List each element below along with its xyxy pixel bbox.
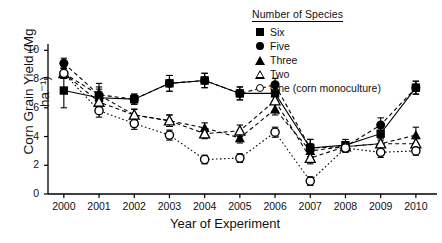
legend: Number of Species SixFiveThreeTwoOne (co… — [252, 4, 381, 95]
x-tick-label: 2006 — [255, 200, 295, 212]
data-point-five — [130, 95, 139, 104]
x-tick-label: 2004 — [185, 200, 225, 212]
legend-item-label: One (corn monoculture) — [270, 82, 381, 94]
open-circle-icon — [252, 84, 268, 92]
filled-circle-icon — [252, 42, 268, 51]
data-point-five — [411, 83, 420, 92]
y-tick-label: 0 — [19, 187, 39, 199]
filled-triangle-icon — [252, 56, 268, 65]
data-point-one — [412, 147, 420, 155]
y-axis-title: Corn Grain Yield (Mg ha⁻¹) — [21, 12, 52, 172]
data-point-one — [271, 128, 279, 136]
data-point-two — [235, 126, 245, 135]
x-tick-label: 2007 — [290, 200, 330, 212]
x-tick-label: 2002 — [114, 200, 154, 212]
data-point-one — [95, 107, 103, 115]
data-point-one — [341, 144, 349, 152]
filled-square-icon — [252, 28, 268, 36]
x-tick-label: 2001 — [79, 200, 119, 212]
data-point-two — [129, 110, 139, 119]
legend-item-two: Two — [252, 67, 381, 81]
marker-glyph — [256, 42, 265, 51]
data-point-five — [59, 59, 68, 68]
chart-figure: Corn Grain Yield (Mg ha⁻¹) Year of Exper… — [0, 0, 442, 243]
x-tick-label: 2010 — [396, 200, 436, 212]
data-point-one — [130, 119, 138, 127]
data-point-five — [165, 79, 174, 88]
legend-item-label: Two — [270, 68, 289, 80]
x-tick-label: 2008 — [325, 200, 365, 212]
data-point-five — [235, 89, 244, 98]
legend-item-label: Five — [270, 40, 290, 52]
data-point-five — [376, 121, 385, 130]
marker-glyph — [256, 28, 264, 36]
marker-glyph — [255, 56, 265, 65]
legend-item-six: Six — [252, 25, 381, 39]
legend-item-label: Six — [270, 26, 285, 38]
data-point-one — [306, 177, 314, 185]
x-tick-label: 2005 — [220, 200, 260, 212]
legend-title: Number of Species — [252, 8, 343, 22]
data-point-one — [201, 155, 209, 163]
legend-item-three: Three — [252, 53, 381, 67]
data-point-five — [200, 76, 209, 85]
legend-item-label: Three — [270, 54, 297, 66]
x-tick-label: 2009 — [361, 200, 401, 212]
y-tick-label: 10 — [19, 43, 39, 55]
open-triangle-icon — [252, 70, 268, 79]
legend-item-five: Five — [252, 39, 381, 53]
y-tick-label: 8 — [19, 72, 39, 84]
x-axis-title: Year of Experiment — [60, 216, 390, 231]
y-tick-label: 2 — [19, 158, 39, 170]
y-tick-label: 4 — [19, 130, 39, 142]
marker-glyph — [256, 84, 264, 92]
x-tick-label: 2003 — [149, 200, 189, 212]
x-tick-label: 2000 — [44, 200, 84, 212]
legend-items: SixFiveThreeTwoOne (corn monoculture) — [252, 25, 381, 95]
data-point-one — [236, 154, 244, 162]
data-point-six — [60, 86, 68, 94]
data-point-one — [165, 131, 173, 139]
legend-item-one: One (corn monoculture) — [252, 81, 381, 95]
data-point-one — [60, 69, 68, 77]
marker-glyph — [255, 70, 265, 79]
data-point-six — [376, 129, 384, 137]
y-tick-label: 6 — [19, 101, 39, 113]
data-point-one — [377, 148, 385, 156]
